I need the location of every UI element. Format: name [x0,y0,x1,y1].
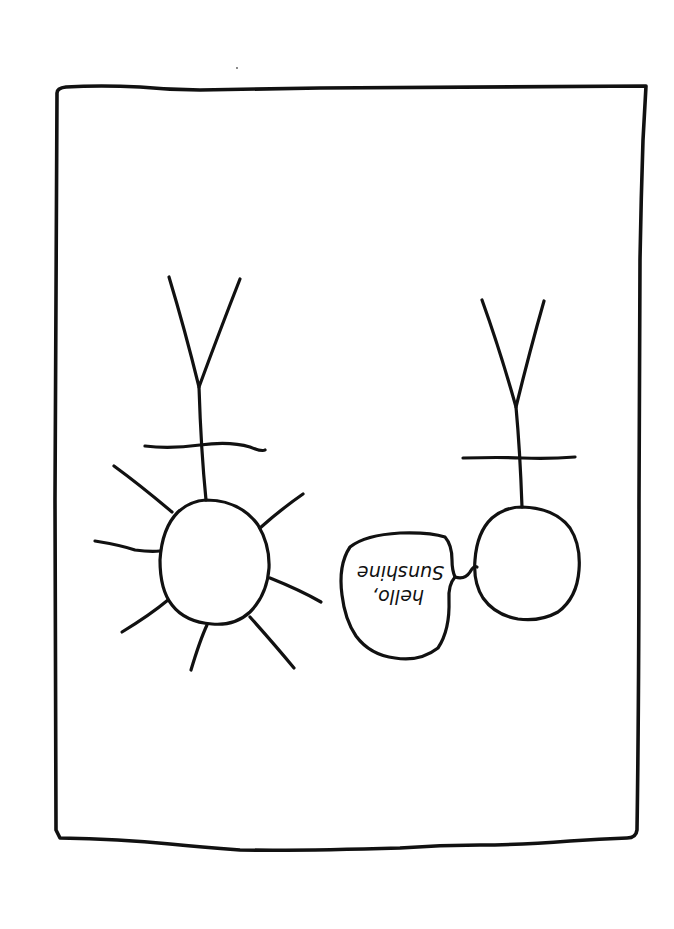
speech-line-1: hello, [372,586,424,608]
speech-bubble: hello, Sunshine [341,533,477,659]
sun-figure [95,277,321,670]
sun-figure-head [160,500,269,624]
stray-mark [236,67,238,69]
comic-panel: hello, Sunshine [0,0,674,929]
speaker-figure-head [475,507,580,620]
speech-line-2: Sunshine [357,562,444,584]
speaker-figure [463,300,579,620]
speaker-figure-legs [482,300,544,407]
speech-bubble-text: hello, Sunshine [357,562,444,608]
panel-frame [55,86,646,850]
speaker-figure-arms [463,457,575,458]
sun-figure-arms [145,443,265,450]
sun-figure-legs [169,277,240,387]
sun-rays [95,466,321,670]
